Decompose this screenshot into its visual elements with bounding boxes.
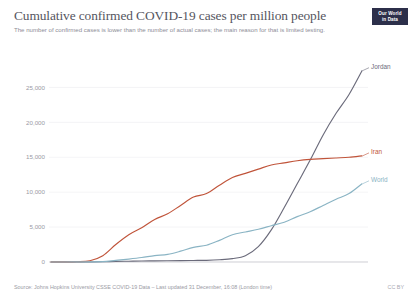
y-tick-label: 10,000: [26, 188, 45, 195]
series-inline-labels[interactable]: JordanIranWorld: [363, 63, 391, 184]
x-tick-label: Apr 30: [131, 267, 150, 268]
y-axis-tick-labels: 05,00010,00015,00020,00025,000: [26, 84, 45, 266]
series-label-connector-world: [363, 181, 370, 184]
plot-area[interactable]: 05,00010,00015,00020,00025,000 Jan 22, 2…: [0, 44, 415, 268]
y-tick-label: 15,000: [26, 153, 45, 160]
x-tick-label: Jun 19: [175, 267, 194, 268]
chart-footer: Source: Johns Hopkins University CSSE CO…: [14, 284, 404, 294]
chart-subtitle: The number of confirmed cases is lower t…: [14, 26, 364, 34]
x-tick-label: Dec 30, 2020: [344, 267, 381, 268]
gridlines: [49, 87, 368, 262]
line-chart-svg[interactable]: 05,00010,00015,00020,00025,000 Jan 22, 2…: [0, 44, 415, 268]
y-tick-label: 5,000: [30, 223, 46, 230]
our-world-in-data-logo[interactable]: Our World in Data: [372, 8, 408, 25]
series-label-connector-iran: [363, 153, 370, 156]
y-tick-label: 0: [42, 258, 46, 265]
license-text[interactable]: CC BY: [388, 284, 404, 290]
series-label-world[interactable]: World: [371, 176, 388, 183]
logo-line-2: in Data: [372, 17, 408, 23]
series-lines[interactable]: [51, 71, 362, 262]
chart-card: Cumulative confirmed COVID-19 cases per …: [0, 0, 415, 302]
x-axis-tick-labels: Jan 22, 2020Mar 11Apr 30Jun 19Aug 8Sep 2…: [33, 267, 381, 268]
x-tick-label: Aug 8: [221, 267, 238, 268]
chart-header: Cumulative confirmed COVID-19 cases per …: [14, 8, 364, 34]
series-label-iran[interactable]: Iran: [371, 148, 382, 155]
series-line-jordan[interactable]: [51, 71, 362, 262]
series-label-jordan[interactable]: Jordan: [371, 63, 391, 70]
x-tick-label: Sep 27: [263, 267, 283, 268]
series-line-world[interactable]: [51, 184, 362, 262]
y-tick-label: 20,000: [26, 119, 45, 126]
page-title: Cumulative confirmed COVID-19 cases per …: [14, 8, 364, 23]
source-text: Source: Johns Hopkins University CSSE CO…: [14, 284, 272, 290]
series-label-connector-jordan: [363, 68, 370, 71]
x-tick-label: Mar 11: [86, 267, 105, 268]
y-tick-label: 25,000: [26, 84, 45, 91]
x-tick-label: Jan 22, 2020: [33, 267, 69, 268]
x-tick-label: Nov 16: [308, 267, 328, 268]
